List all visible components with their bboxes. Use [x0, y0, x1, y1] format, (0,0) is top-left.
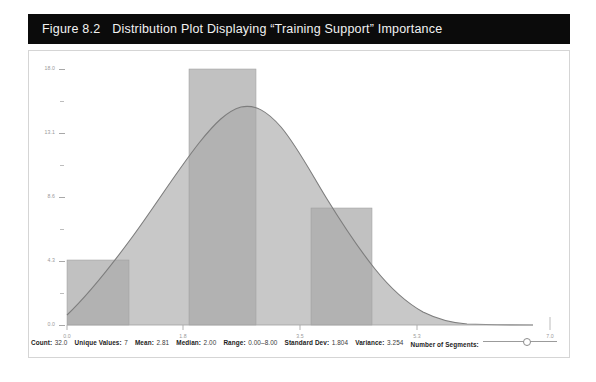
stat-value: 32.0	[55, 339, 68, 346]
y-axis-tick	[60, 229, 64, 230]
y-axis-tick	[59, 261, 65, 262]
y-axis-tick	[59, 197, 65, 198]
distribution-plot: 18.0 13.1 8.6 4.3 0.0 0.0 1.8 3.5 5.3 7.…	[29, 51, 571, 359]
y-axis-tick	[60, 165, 64, 166]
stat-unique-values: Unique Values: 7	[75, 339, 128, 346]
figure-caption-text: Distribution Plot Displaying “Training S…	[112, 22, 442, 36]
segments-label: Number of Segments:	[410, 341, 478, 348]
stat-value: 7	[124, 339, 128, 346]
stat-median: Median: 2.00	[176, 339, 216, 346]
plot-panel: 18.0 13.1 8.6 4.3 0.0 0.0 1.8 3.5 5.3 7.…	[28, 50, 570, 358]
segments-control-group: Number of Segments:	[410, 336, 556, 348]
plot-svg	[29, 51, 571, 359]
stat-label: Variance:	[355, 339, 384, 346]
stat-value: 2.81	[156, 339, 169, 346]
stat-label: Standard Dev:	[285, 339, 330, 346]
segments-slider[interactable]	[483, 336, 557, 347]
stat-label: Mean:	[135, 339, 154, 346]
y-axis-tick-label: 18.0	[33, 65, 55, 71]
figure-caption-bar: Figure 8.2 Distribution Plot Displaying …	[28, 14, 570, 44]
y-axis-tick	[60, 293, 64, 294]
y-axis-tick	[59, 69, 65, 70]
y-axis-tick-label: 8.6	[33, 193, 55, 199]
stat-label: Median:	[176, 339, 201, 346]
y-axis-tick	[60, 101, 64, 102]
stat-label: Count:	[31, 339, 52, 346]
figure-container: Figure 8.2 Distribution Plot Displaying …	[0, 0, 596, 382]
y-axis-tick	[59, 133, 65, 134]
stat-variance: Variance: 3.254	[355, 339, 403, 346]
y-axis-tick	[59, 325, 65, 326]
stat-label: Range:	[223, 339, 245, 346]
stat-value: 1.804	[332, 339, 349, 346]
histogram-bar[interactable]	[311, 208, 372, 325]
stat-value: 0.00–8.00	[248, 339, 277, 346]
stat-value: 3.254	[387, 339, 404, 346]
statistics-bar: Count: 32.0 Unique Values: 7 Mean: 2.81 …	[31, 335, 569, 349]
histogram-bar[interactable]	[67, 260, 129, 325]
y-axis-tick-label: 13.1	[33, 129, 55, 135]
y-axis-tick-label: 0.0	[33, 321, 55, 327]
histogram-bar[interactable]	[189, 69, 256, 325]
figure-number: Figure 8.2	[42, 22, 100, 36]
stat-mean: Mean: 2.81	[135, 339, 169, 346]
stat-range: Range: 0.00–8.00	[223, 339, 277, 346]
density-area-fill	[67, 106, 533, 325]
stat-count: Count: 32.0	[31, 339, 68, 346]
stat-standard-dev: Standard Dev: 1.804	[285, 339, 349, 346]
slider-knob[interactable]	[523, 338, 531, 346]
y-axis-tick-label: 4.3	[33, 257, 55, 263]
stat-label: Unique Values:	[75, 339, 122, 346]
slider-track[interactable]	[483, 341, 557, 342]
stat-value: 2.00	[204, 339, 217, 346]
